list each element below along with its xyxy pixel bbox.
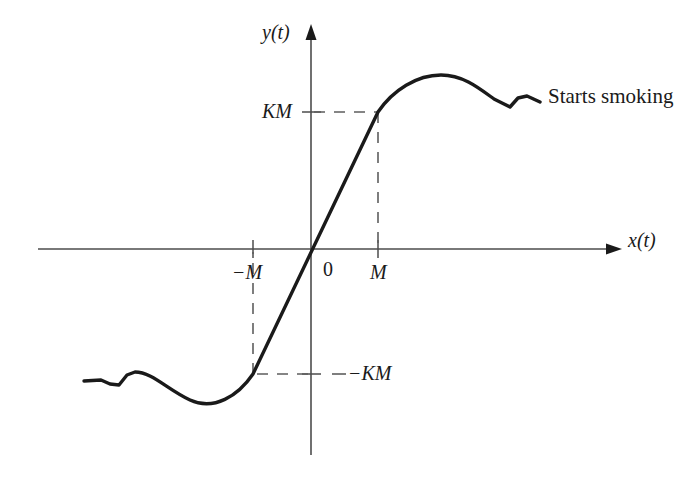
tick-label-positive-m: M xyxy=(370,262,387,282)
x-axis-arrowhead xyxy=(606,244,622,255)
saturation-curve-path xyxy=(84,75,540,404)
axis-group xyxy=(38,24,622,455)
annotation-starts-smoking: Starts smoking xyxy=(548,86,673,107)
y-axis-arrowhead xyxy=(306,24,317,40)
tick-label-negative-km: −KM xyxy=(348,363,392,383)
tick-label-negative-m: −M xyxy=(232,262,262,282)
figure-container: y(t) x(t) KM −KM −M M 0 Starts smoking xyxy=(0,0,696,477)
y-axis-label: y(t) xyxy=(262,22,290,42)
saturation-curve-plot xyxy=(0,0,696,477)
origin-label: 0 xyxy=(323,259,333,279)
tick-label-positive-km: KM xyxy=(262,101,292,121)
x-axis-label: x(t) xyxy=(628,230,656,250)
